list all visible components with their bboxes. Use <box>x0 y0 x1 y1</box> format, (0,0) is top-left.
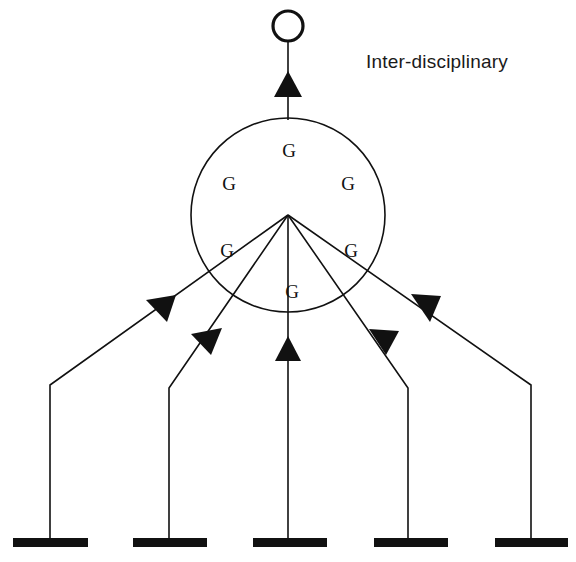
arrowhead-outer-left <box>146 295 176 322</box>
g-label-upper-left: G <box>222 173 236 194</box>
g-label-upper-right: G <box>341 173 355 194</box>
arrowhead-inner-right <box>369 329 399 355</box>
branch-group <box>50 215 531 545</box>
ground-bar-3 <box>253 538 327 547</box>
inter-disciplinary-caption: Inter-disciplinary <box>366 51 508 72</box>
ground-bar-group <box>13 538 568 547</box>
diagram-canvas: G G G G G G Inter-disciplinary <box>0 0 576 562</box>
branch-outer-right <box>288 215 531 545</box>
arrowhead-center <box>275 336 301 361</box>
arrowhead-inner-left <box>191 328 222 355</box>
ground-bar-4 <box>374 538 448 547</box>
g-label-mid-right: G <box>344 240 358 261</box>
output-circle <box>273 11 303 41</box>
branch-arrowhead-group <box>146 294 441 361</box>
inter-disciplinary-diagram: G G G G G G Inter-disciplinary <box>0 0 576 562</box>
ground-bar-1 <box>13 538 88 547</box>
g-label-top-center: G <box>282 140 296 161</box>
g-label-bottom-center: G <box>285 281 299 302</box>
g-label-mid-left: G <box>220 240 234 261</box>
ground-bar-2 <box>133 538 207 547</box>
g-label-group: G G G G G G <box>220 140 358 302</box>
arrowhead-outer-right <box>411 294 441 322</box>
ground-bar-5 <box>495 538 568 547</box>
branch-inner-left <box>169 215 288 545</box>
output-arrowhead <box>274 71 302 97</box>
branch-inner-right <box>288 215 408 545</box>
